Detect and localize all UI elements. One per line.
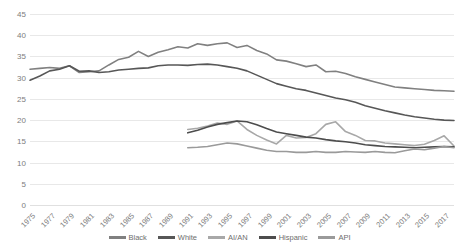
series-line-black xyxy=(30,43,454,91)
legend-label: API xyxy=(338,233,350,242)
chart-legend: BlackWhiteAI/ANHispanicAPI xyxy=(0,233,459,242)
legend-item-hispanic[interactable]: Hispanic xyxy=(259,233,308,242)
series-layer xyxy=(30,14,454,205)
y-axis-tick-label: 0 xyxy=(0,201,26,210)
legend-label: AI/AN xyxy=(228,233,248,242)
line-chart: 454035302520151050 197519771979198119831… xyxy=(0,0,459,250)
legend-item-api[interactable]: API xyxy=(318,233,350,242)
y-axis-tick-label: 35 xyxy=(0,52,26,61)
y-axis-tick-label: 25 xyxy=(0,94,26,103)
legend-label: White xyxy=(178,233,197,242)
legend-item-black[interactable]: Black xyxy=(109,233,147,242)
y-axis-tick-label: 10 xyxy=(0,158,26,167)
legend-swatch-icon xyxy=(259,236,276,238)
legend-swatch-icon xyxy=(158,236,175,238)
y-axis-tick-label: 5 xyxy=(0,179,26,188)
plot-area xyxy=(30,14,454,205)
y-axis-tick-label: 45 xyxy=(0,10,26,19)
y-axis: 454035302520151050 xyxy=(0,0,28,250)
legend-swatch-icon xyxy=(109,236,126,238)
series-line-ai-an xyxy=(188,121,454,146)
legend-swatch-icon xyxy=(318,236,335,238)
legend-item-ai-an[interactable]: AI/AN xyxy=(208,233,248,242)
y-axis-tick-label: 40 xyxy=(0,31,26,40)
y-axis-tick-label: 30 xyxy=(0,73,26,82)
y-axis-tick-label: 15 xyxy=(0,137,26,146)
series-line-white xyxy=(30,64,454,120)
legend-swatch-icon xyxy=(208,236,225,238)
legend-label: Black xyxy=(129,233,147,242)
legend-label: Hispanic xyxy=(279,233,308,242)
legend-item-white[interactable]: White xyxy=(158,233,197,242)
y-axis-tick-label: 20 xyxy=(0,116,26,125)
